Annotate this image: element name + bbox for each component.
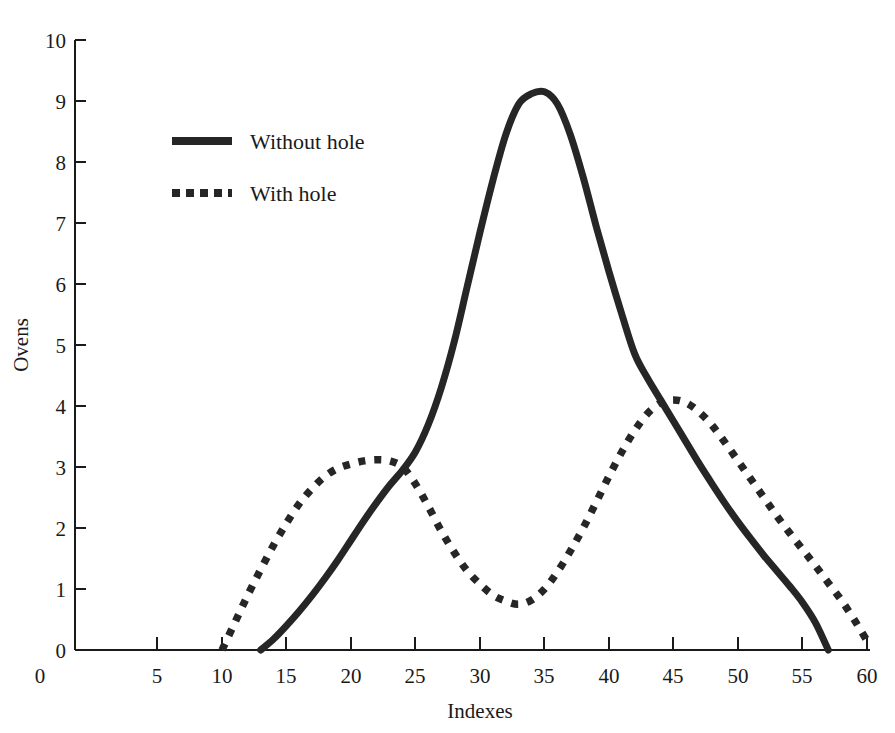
x-tick-label-15: 15 xyxy=(276,664,297,688)
x-tick-label-5: 5 xyxy=(152,664,163,688)
y-tick-label-6: 6 xyxy=(56,273,67,297)
x-tick-label-55: 55 xyxy=(792,664,813,688)
y-tick-label-3: 3 xyxy=(56,456,67,480)
chart-container: 0 1 2 3 4 5 6 7 8 9 10 5 10 xyxy=(0,0,895,733)
chart-legend: Without hole With hole xyxy=(172,129,365,206)
y-tick-label-1: 1 xyxy=(56,578,67,602)
x-tick-label-30: 30 xyxy=(470,664,491,688)
series-line-without-hole xyxy=(261,91,829,650)
x-tick-label-50: 50 xyxy=(728,664,749,688)
y-axis-ticks: 0 1 2 3 4 5 6 7 8 9 10 xyxy=(45,29,86,663)
x-tick-label-40: 40 xyxy=(599,664,620,688)
y-tick-label-4: 4 xyxy=(56,395,67,419)
y-tick-label-10: 10 xyxy=(45,29,66,53)
x-tick-label-25: 25 xyxy=(405,664,426,688)
x-axis-ticks: 5 10 15 20 25 30 35 40 45 50 55 60 xyxy=(152,637,878,688)
axes-spines xyxy=(75,40,870,650)
x-tick-label-35: 35 xyxy=(534,664,555,688)
x-tick-label-20: 20 xyxy=(341,664,362,688)
series-group xyxy=(222,91,867,650)
origin-label: 0 xyxy=(35,664,46,688)
y-tick-label-8: 8 xyxy=(56,151,67,175)
y-tick-label-2: 2 xyxy=(56,517,67,541)
x-tick-label-60: 60 xyxy=(857,664,878,688)
line-chart: 0 1 2 3 4 5 6 7 8 9 10 5 10 xyxy=(0,0,895,733)
x-axis-title: Indexes xyxy=(447,699,512,723)
legend-label-with-hole: With hole xyxy=(250,181,337,206)
y-tick-label-7: 7 xyxy=(56,212,67,236)
legend-label-without-hole: Without hole xyxy=(250,129,365,154)
y-axis-title: Ovens xyxy=(9,318,33,372)
y-tick-label-9: 9 xyxy=(56,90,67,114)
y-tick-label-0: 0 xyxy=(56,639,67,663)
x-tick-label-45: 45 xyxy=(663,664,684,688)
series-line-with-hole xyxy=(222,400,867,650)
y-tick-label-5: 5 xyxy=(56,334,67,358)
x-tick-label-10: 10 xyxy=(212,664,233,688)
